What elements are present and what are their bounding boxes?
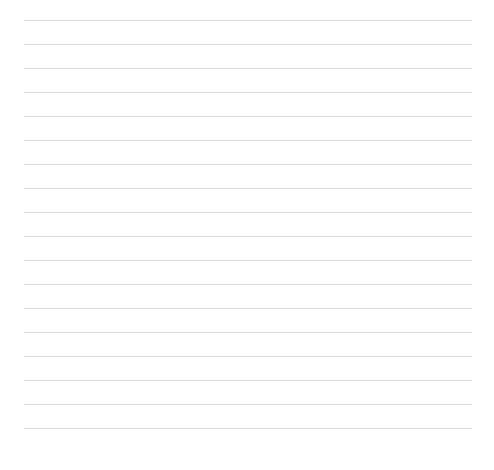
- ruled-line: [24, 236, 472, 237]
- ruled-line: [24, 44, 472, 45]
- ruled-line: [24, 164, 472, 165]
- ruled-line: [24, 380, 472, 381]
- ruled-line: [24, 428, 472, 429]
- ruled-line: [24, 92, 472, 93]
- ruled-line: [24, 356, 472, 357]
- ruled-line: [24, 284, 472, 285]
- ruled-line: [24, 332, 472, 333]
- ruled-line: [24, 212, 472, 213]
- ruled-line: [24, 308, 472, 309]
- ruled-line: [24, 140, 472, 141]
- ruled-line: [24, 116, 472, 117]
- ruled-line: [24, 68, 472, 69]
- lined-paper-page: [0, 0, 494, 470]
- ruled-line: [24, 404, 472, 405]
- ruled-line: [24, 20, 472, 21]
- ruled-line: [24, 188, 472, 189]
- ruled-line: [24, 260, 472, 261]
